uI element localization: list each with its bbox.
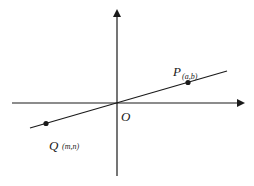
point-q bbox=[43, 121, 48, 126]
point-p-label: P bbox=[172, 64, 181, 79]
point-q-label: Q bbox=[49, 138, 59, 153]
coordinate-diagram: O P (a,b) Q (m,n) bbox=[0, 0, 254, 186]
point-p-coords: (a,b) bbox=[182, 72, 198, 81]
point-q-coords: (m,n) bbox=[62, 142, 79, 151]
origin-label: O bbox=[121, 109, 131, 124]
